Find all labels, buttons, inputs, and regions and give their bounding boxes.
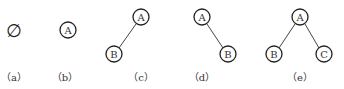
caption-a: （a） [1,72,27,83]
edge-a-b [207,24,223,48]
node-e-right-child: C [316,46,332,62]
edge-a-b [279,24,295,48]
node-label: A [295,12,304,23]
caption-c: （c） [128,72,154,83]
node-label: A [197,12,206,23]
node-e-root: A [292,9,308,25]
panel-c: A B （c） [106,9,154,83]
panel-a: ∅ （a） [1,20,27,83]
node-c-root: A [133,9,149,25]
binary-tree-forms-diagram: ∅ （a） A （b） A B （c） A B （d） [0,0,344,89]
edge-a-c [305,24,319,48]
panel-e: A B C （e） [266,9,332,83]
node-c-left-child: B [106,46,122,62]
edge-a-b [119,24,136,48]
node-d-right-child: B [220,46,236,62]
node-d-root: A [194,9,210,25]
node-label: A [63,25,72,36]
node-b-root: A [60,22,76,38]
empty-set-symbol: ∅ [6,20,22,41]
node-label: C [320,49,328,60]
panel-b: A （b） [52,22,78,83]
node-label: A [136,12,145,23]
node-label: B [224,49,231,60]
node-label: B [110,49,117,60]
node-e-left-child: B [266,46,282,62]
panel-d: A B （d） [189,9,236,83]
caption-e: （e） [287,72,313,83]
caption-b: （b） [52,72,78,83]
caption-d: （d） [189,72,215,83]
node-label: B [270,49,277,60]
